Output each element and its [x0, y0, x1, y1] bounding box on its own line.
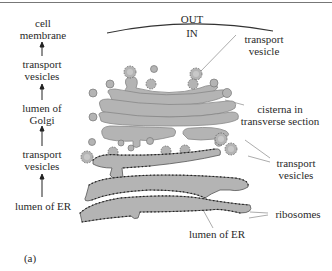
- label-line: lumen of ER: [10, 200, 76, 212]
- panel-label: (a): [20, 252, 40, 264]
- label-line: transport: [14, 58, 70, 70]
- label-line: cisterna in: [232, 103, 328, 115]
- annotation-cisterna: cisterna in transverse section: [232, 103, 328, 127]
- label-line: lumen of: [14, 102, 70, 114]
- label-line: ribosomes: [268, 208, 328, 220]
- annotation-ribosomes: ribosomes: [268, 208, 328, 220]
- annotation-transport-vesicle: transport vesicle: [234, 33, 294, 57]
- label-line: vesicle: [234, 45, 294, 57]
- pathway-label-lumen-er: lumen of ER: [10, 200, 76, 212]
- pathway-label-transport-vesicles-lower: transport vesicles: [14, 148, 70, 172]
- in-label: IN: [172, 27, 212, 39]
- label-line: cell: [18, 17, 68, 29]
- pathway-label-cell-membrane: cell membrane: [18, 17, 68, 41]
- annotation-lumen-er: lumen of ER: [184, 228, 250, 240]
- label-line: membrane: [18, 29, 68, 41]
- label-line: transport: [266, 157, 326, 169]
- label-line: vesicles: [14, 160, 70, 172]
- endoplasmic-reticulum: [80, 149, 251, 222]
- label-line: lumen of ER: [184, 228, 250, 240]
- out-label: OUT: [172, 13, 212, 25]
- label-line: vesicles: [14, 70, 70, 82]
- label-line: transport: [14, 148, 70, 160]
- label-line: vesicles: [266, 169, 326, 181]
- annotation-transport-vesicles: transport vesicles: [266, 157, 326, 181]
- pathway-label-lumen-golgi: lumen of Golgi: [14, 102, 70, 126]
- pathway-label-transport-vesicles-upper: transport vesicles: [14, 58, 70, 82]
- label-line: Golgi: [14, 114, 70, 126]
- label-line: transverse section: [232, 115, 328, 127]
- label-line: transport: [234, 33, 294, 45]
